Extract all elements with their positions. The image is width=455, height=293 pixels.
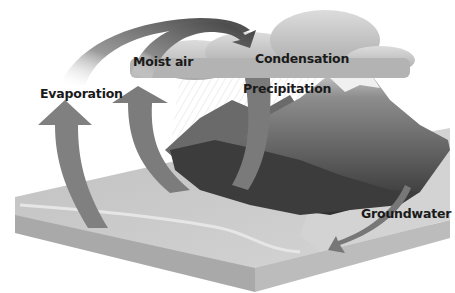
water-cycle-diagram: Evaporation Moist air Condensation Preci… xyxy=(0,0,455,293)
precipitation-label: Precipitation xyxy=(243,83,331,96)
groundwater-label: Groundwater xyxy=(361,208,451,221)
diagram-graphics xyxy=(0,0,455,293)
moist-air-label: Moist air xyxy=(133,56,193,69)
condensation-label: Condensation xyxy=(255,53,349,66)
evaporation-label: Evaporation xyxy=(40,88,123,101)
